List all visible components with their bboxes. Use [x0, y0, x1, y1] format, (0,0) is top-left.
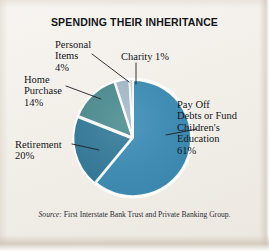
- pie-label-home-purchase: Home Purchase 14%: [24, 74, 62, 108]
- source-text: First Interstate Bank Trust and Private …: [62, 210, 231, 219]
- source-prefix: Source:: [39, 210, 62, 219]
- pie-shading: [75, 80, 191, 196]
- pie-label-personal-items: Personal Items 4%: [55, 39, 91, 73]
- pie-label-pay-off-debts: Pay Off Debts or Fund Children's Educati…: [177, 99, 237, 156]
- pie-label-retirement: Retirement 20%: [15, 139, 62, 162]
- pie-chart-figure: SPENDING THEIR INHERITANCE Personal Item…: [0, 0, 269, 251]
- pie-label-charity: Charity 1%: [121, 51, 169, 62]
- source-note: Source: First Interstate Bank Trust and …: [0, 210, 269, 219]
